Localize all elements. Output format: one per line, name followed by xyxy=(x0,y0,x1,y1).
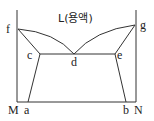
point-e-label: e xyxy=(117,48,122,62)
point-f-label: f xyxy=(6,22,10,36)
liquid-region-label: L(용액) xyxy=(58,12,93,25)
component-N-label: N xyxy=(134,103,143,117)
point-d-label: d xyxy=(71,55,77,69)
point-a-label: a xyxy=(24,103,30,117)
phase-diagram: L(용액) f g c d e a b M N xyxy=(0,0,154,121)
component-M-label: M xyxy=(8,103,19,117)
point-b-label: b xyxy=(123,103,129,117)
point-g-label: g xyxy=(140,18,146,32)
liquidus-right-curve xyxy=(74,25,135,54)
point-c-label: c xyxy=(27,48,32,62)
